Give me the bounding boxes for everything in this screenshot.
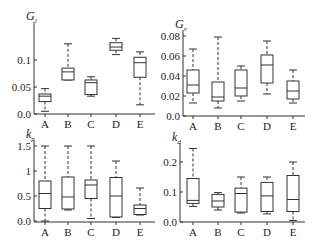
y-tick-label: 0.1	[17, 54, 31, 66]
y-tick-label: 0.05	[12, 81, 32, 93]
box-E	[287, 70, 299, 103]
x-tick-label: B	[214, 226, 221, 238]
x-tick-label: B	[214, 120, 221, 132]
box-D	[110, 38, 122, 54]
box-C	[235, 177, 247, 213]
box-A	[39, 89, 51, 112]
box-A	[187, 149, 199, 207]
x-tick-label: D	[263, 226, 271, 238]
panel-g-v: Gv0.00.020.040.060.08ABCDE	[161, 17, 305, 132]
x-tick-label: E	[137, 226, 144, 238]
x-tick-label: B	[64, 118, 71, 130]
x-tick-label: A	[41, 118, 49, 130]
y-tick-label: 0.06	[161, 50, 181, 62]
panel-k-d: kd0.00.10.2ABCDE	[163, 130, 305, 238]
x-tick-label: C	[237, 120, 244, 132]
y-tick-label: 1.5	[17, 140, 31, 152]
box-C	[235, 66, 247, 101]
box-B	[212, 193, 224, 210]
x-tick-label: E	[290, 226, 297, 238]
box-C	[85, 146, 97, 219]
y-tick-label: 0.2	[163, 156, 177, 168]
box-E	[134, 188, 146, 215]
box-B	[62, 146, 74, 210]
y-tick-label: 0.0	[166, 110, 180, 122]
panel-title: Gl	[26, 9, 37, 25]
box-E	[134, 52, 146, 105]
box-A	[39, 146, 51, 221]
x-tick-label: C	[87, 226, 94, 238]
y-tick-label: 0.1	[163, 186, 177, 198]
box-B	[62, 44, 74, 80]
y-tick-label: 0.02	[161, 90, 180, 102]
x-tick-label: D	[112, 226, 120, 238]
x-tick-label: A	[189, 226, 197, 238]
panel-title: kd	[172, 130, 181, 146]
x-tick-label: A	[41, 226, 49, 238]
box-plot-grid: Gl0.00.050.1ABCDEGv0.00.020.040.060.08AB…	[0, 0, 321, 252]
panel-k-p: kp0.00.511.5ABCDE	[17, 127, 155, 238]
x-tick-label: A	[189, 120, 197, 132]
x-tick-label: D	[112, 118, 120, 130]
box-D	[261, 177, 273, 214]
y-tick-label: 0.0	[163, 216, 177, 228]
box-D	[261, 41, 273, 94]
x-tick-label: E	[137, 118, 144, 130]
y-tick-label: 0.0	[17, 108, 31, 120]
x-tick-label: E	[290, 120, 297, 132]
x-tick-label: C	[87, 118, 94, 130]
y-tick-label: 0.08	[161, 30, 181, 42]
panel-g-l: Gl0.00.050.1ABCDE	[12, 9, 155, 130]
y-tick-label: 0.5	[17, 190, 31, 202]
y-tick-label: 0.04	[161, 70, 181, 82]
x-tick-label: D	[263, 120, 271, 132]
y-tick-label: 0.0	[17, 215, 31, 227]
box-D	[110, 161, 122, 218]
y-tick-label: 1	[26, 165, 32, 177]
x-tick-label: C	[237, 226, 244, 238]
box-C	[85, 77, 97, 96]
x-tick-label: B	[64, 226, 71, 238]
box-A	[187, 49, 199, 103]
box-E	[287, 162, 299, 221]
box-B	[212, 37, 224, 108]
